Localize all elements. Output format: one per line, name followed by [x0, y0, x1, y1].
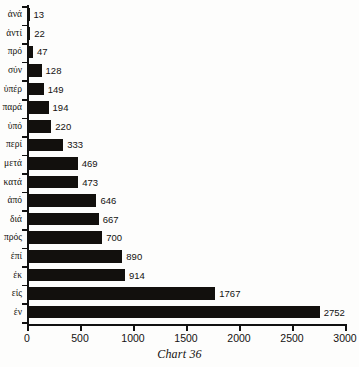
- category-label: εἰς: [12, 289, 22, 299]
- x-axis-tick-label: 1500: [174, 333, 197, 344]
- category-label: ἀπό: [7, 196, 22, 206]
- bar-row: μετά469: [27, 155, 345, 174]
- category-label: παρά: [3, 103, 23, 113]
- x-axis-tick-label: 2000: [227, 333, 250, 344]
- value-label: 194: [53, 103, 69, 113]
- value-label: 149: [48, 85, 64, 95]
- bar: [28, 194, 96, 207]
- bar-row: ὑπέρ149: [27, 80, 345, 99]
- category-label: μετά: [4, 159, 22, 169]
- y-axis-tick: [22, 25, 28, 27]
- value-label: 1767: [219, 289, 240, 299]
- bar: [28, 27, 30, 40]
- category-label: πρός: [4, 233, 22, 243]
- category-label: ἐκ: [13, 271, 22, 281]
- bar-row: εἰς1767: [27, 285, 345, 304]
- y-axis-tick: [22, 6, 28, 8]
- category-label: πρό: [8, 48, 22, 57]
- x-axis-tick-label: 3000: [333, 333, 356, 344]
- bar: [28, 176, 78, 189]
- value-label: 700: [106, 234, 122, 244]
- bar-row: παρά194: [27, 99, 345, 118]
- bar: [28, 213, 99, 226]
- value-label: 22: [34, 29, 45, 39]
- plot-area: ἀνά13ἀντί22πρό47σύν128ὑπέρ149παρά194ὑπό2…: [27, 6, 345, 322]
- bar: [28, 8, 30, 21]
- category-label: ἐν: [14, 308, 22, 318]
- bar: [28, 269, 125, 282]
- category-label: σύν: [8, 66, 22, 76]
- x-axis-tick-label: 2500: [280, 333, 303, 344]
- y-axis-tick: [22, 136, 28, 138]
- bar: [28, 139, 63, 152]
- value-label: 333: [67, 141, 83, 151]
- x-axis-tick: [133, 324, 135, 331]
- x-axis-tick: [345, 324, 347, 331]
- value-label: 13: [34, 11, 45, 21]
- category-label: κατά: [4, 178, 22, 188]
- category-label: ὑπό: [8, 122, 22, 132]
- bar: [28, 101, 49, 114]
- y-axis-tick: [22, 80, 28, 82]
- y-axis-tick: [22, 229, 28, 231]
- chart-page: ἀνά13ἀντί22πρό47σύν128ὑπέρ149παρά194ὑπό2…: [0, 0, 359, 367]
- bar: [28, 250, 122, 263]
- x-axis-tick-label: 500: [71, 333, 89, 344]
- category-label: διά: [10, 215, 22, 225]
- bar-row: ὑπό220: [27, 118, 345, 137]
- value-label: 2752: [324, 308, 345, 318]
- bar: [28, 46, 33, 59]
- bar: [28, 157, 78, 170]
- value-label: 914: [129, 271, 145, 281]
- bar-row: διά667: [27, 210, 345, 229]
- bar: [28, 287, 215, 300]
- y-axis-tick: [22, 192, 28, 194]
- x-axis-tick: [27, 324, 29, 331]
- bar-row: ἐν2752: [27, 303, 345, 322]
- bar: [28, 231, 102, 244]
- x-axis-tick: [239, 324, 241, 331]
- bar-row: ἀντί22: [27, 25, 345, 44]
- bar: [28, 306, 320, 319]
- bar: [28, 64, 42, 77]
- y-axis-tick: [22, 210, 28, 212]
- bar-row: περί333: [27, 136, 345, 155]
- bar-row: ἐπί890: [27, 248, 345, 267]
- y-axis-tick: [22, 173, 28, 175]
- x-axis-tick-label: 0: [24, 333, 30, 344]
- value-label: 47: [37, 48, 48, 58]
- value-label: 220: [55, 122, 71, 132]
- category-label: ἐπί: [11, 252, 22, 262]
- y-axis-tick: [22, 285, 28, 287]
- category-label: ὑπέρ: [4, 85, 22, 95]
- bar-row: κατά473: [27, 173, 345, 192]
- value-label: 646: [100, 196, 116, 206]
- value-label: 469: [82, 159, 98, 169]
- value-label: 667: [103, 215, 119, 225]
- x-axis-tick: [186, 324, 188, 331]
- value-label: 128: [46, 66, 62, 76]
- bar-row: ἐκ914: [27, 266, 345, 285]
- bar: [28, 120, 51, 133]
- y-axis-tick: [22, 266, 28, 268]
- bar-row: ἀνά13: [27, 6, 345, 25]
- category-label: περί: [6, 140, 22, 150]
- value-label: 473: [82, 178, 98, 188]
- y-axis-tick: [22, 43, 28, 45]
- x-axis-tick: [292, 324, 294, 331]
- x-axis-tick: [80, 324, 82, 331]
- bar: [28, 83, 44, 96]
- chart-caption: Chart 36: [0, 347, 359, 362]
- y-axis-tick: [22, 303, 28, 305]
- y-axis-tick: [22, 155, 28, 157]
- bar-row: πρός700: [27, 229, 345, 248]
- value-label: 890: [126, 252, 142, 262]
- category-label: ἀντί: [6, 29, 22, 38]
- y-axis-tick: [22, 248, 28, 250]
- bar-row: πρό47: [27, 43, 345, 62]
- bar-row: σύν128: [27, 62, 345, 81]
- x-axis-tick-label: 1000: [121, 333, 144, 344]
- category-label: ἀνά: [8, 10, 22, 20]
- y-axis-tick: [22, 99, 28, 101]
- bar-row: ἀπό646: [27, 192, 345, 211]
